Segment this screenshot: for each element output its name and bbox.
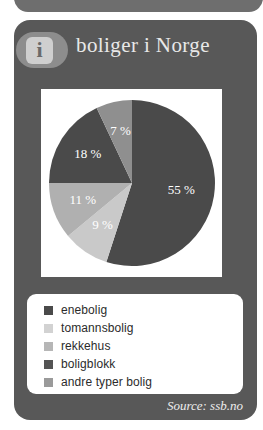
source-attribution: Source: ssb.no: [167, 398, 243, 414]
info-badge-pill: i: [16, 32, 68, 68]
pie-chart: 55 %9 %11 %18 %7 %: [48, 99, 216, 267]
legend-item-label: boligblokk: [61, 357, 115, 371]
legend-item: rekkehus: [27, 338, 243, 354]
card-header: i boliger i Norge: [14, 26, 257, 72]
chart-legend: enebolig tomannsbolig rekkehus boligblok…: [27, 294, 243, 394]
legend-item-label: tomannsbolig: [61, 321, 134, 335]
legend-swatch-icon: [44, 342, 53, 351]
legend-item-label: rekkehus: [61, 339, 111, 353]
info-icon-glyph: i: [36, 39, 42, 61]
pie-slice-label: 18 %: [74, 146, 101, 161]
pie-slice-label: 11 %: [69, 192, 96, 207]
chart-panel: 55 %9 %11 %18 %7 %: [41, 89, 222, 277]
legend-item-label: andre typer bolig: [61, 375, 152, 389]
infographic-card: i boliger i Norge 55 %9 %11 %18 %7 % ene…: [14, 20, 257, 420]
pie-slice-label: 55 %: [167, 182, 194, 197]
legend-swatch-icon: [44, 324, 53, 333]
pie-slice-label: 7 %: [110, 123, 131, 138]
info-icon: i: [26, 37, 53, 64]
partial-card-above: [14, 0, 263, 12]
legend-item-label: enebolig: [61, 303, 107, 317]
legend-item: tomannsbolig: [27, 320, 243, 336]
pie-slice-label: 9 %: [92, 217, 113, 232]
legend-swatch-icon: [44, 378, 53, 387]
legend-item: andre typer bolig: [27, 374, 243, 390]
legend-item: enebolig: [27, 302, 243, 318]
legend-swatch-icon: [44, 360, 53, 369]
legend-swatch-icon: [44, 306, 53, 315]
legend-item: boligblokk: [27, 356, 243, 372]
page-title: boliger i Norge: [76, 33, 210, 58]
